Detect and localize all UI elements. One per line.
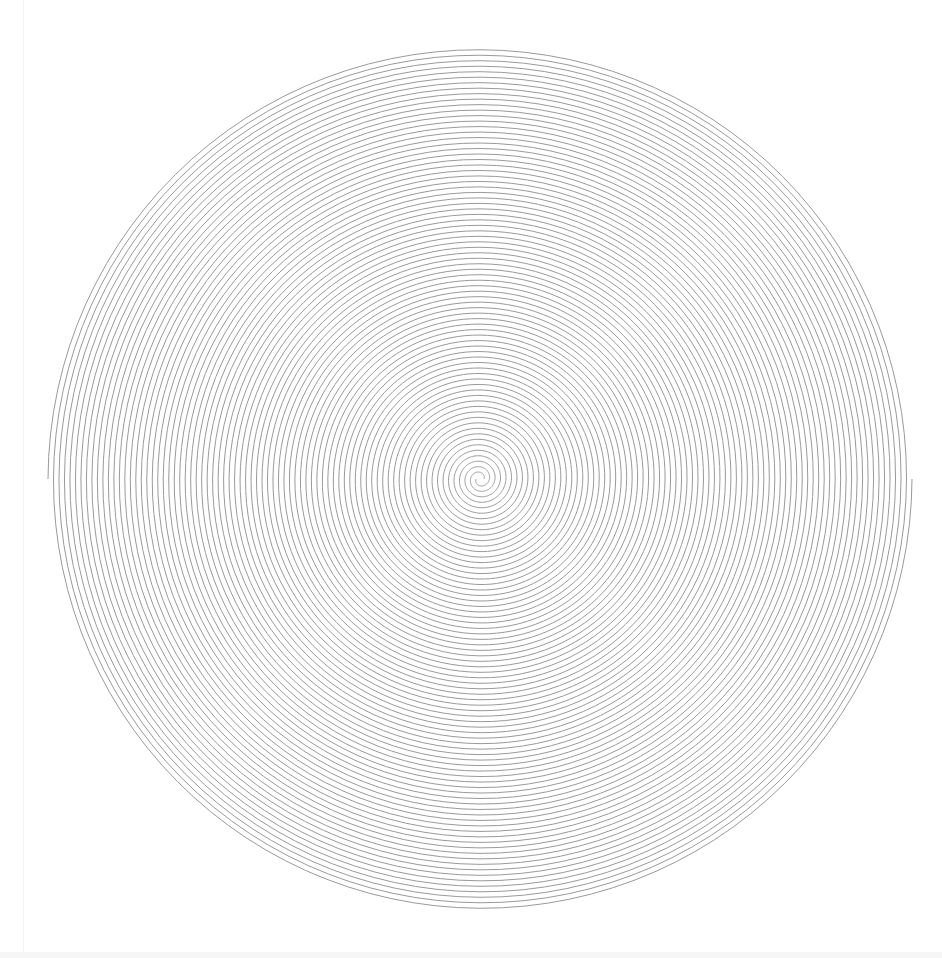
double-spiral-drawing: [0, 0, 942, 958]
spiral-canvas: [0, 0, 942, 958]
